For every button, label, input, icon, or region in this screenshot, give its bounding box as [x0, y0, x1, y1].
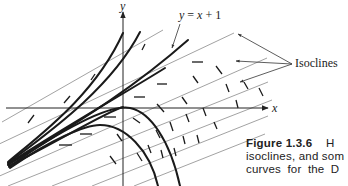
figure-caption: Figure 1.3.6 H isoclines, and som curves…: [246, 137, 348, 176]
caption-line-3: curves for the D: [246, 163, 348, 176]
y-axis-label: y: [119, 0, 126, 13]
isoclines-label: Isoclines: [295, 56, 338, 70]
x-axis-label: x: [271, 101, 278, 115]
solution-curve: [8, 33, 123, 162]
figure-number: Figure 1.3.6: [246, 137, 312, 149]
caption-line-1-tail: H: [326, 137, 335, 149]
caption-line-1: Figure 1.3.6 H: [246, 137, 348, 150]
line-label-y-equals-x-plus-1: y = x + 1: [178, 8, 221, 22]
slope-marks: [28, 44, 263, 164]
caption-line-2: isoclines, and som: [246, 150, 348, 163]
line-label-leader: [172, 24, 180, 48]
isocline-pointers: [236, 34, 292, 82]
isocline-line: [52, 100, 272, 186]
isocline-line: [92, 116, 268, 186]
